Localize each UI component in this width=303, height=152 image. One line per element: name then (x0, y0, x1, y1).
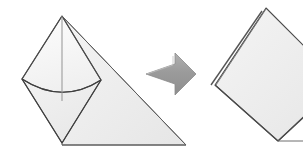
arrow-right-icon (146, 53, 196, 95)
diagram-canvas (0, 0, 303, 152)
figure-after (211, 8, 303, 141)
diamond-square (215, 8, 303, 141)
process-arrow (146, 53, 196, 95)
origami-diagram-root: kite form with curved flap over large tr… (0, 0, 303, 152)
figure-before (22, 16, 186, 145)
